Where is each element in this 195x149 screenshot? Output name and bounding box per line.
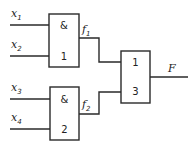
gate-3-or: 1 3 bbox=[121, 51, 150, 103]
label-x2: x2 bbox=[11, 38, 22, 53]
gate-3-number: 3 bbox=[132, 86, 138, 97]
label-x3: x3 bbox=[11, 81, 22, 96]
label-f1: f1 bbox=[81, 23, 91, 38]
label-f2: f2 bbox=[81, 98, 91, 113]
logic-circuit-diagram: x1 x2 x3 x4 & 1 & 2 1 3 f1 f2 F bbox=[0, 0, 195, 149]
gate-2-number: 2 bbox=[61, 124, 67, 135]
label-x4: x4 bbox=[11, 111, 22, 126]
gate-1-op: & bbox=[60, 20, 68, 31]
gate-2-and: & 2 bbox=[50, 87, 79, 140]
gate-1-number: 1 bbox=[61, 51, 67, 62]
gate-2-op: & bbox=[61, 94, 69, 105]
label-x1: x1 bbox=[11, 7, 22, 22]
label-output-F: F bbox=[167, 62, 176, 75]
gate-1-and: & 1 bbox=[49, 14, 79, 67]
gate-3-op: 1 bbox=[132, 57, 138, 68]
wire-f1 bbox=[79, 38, 121, 62]
